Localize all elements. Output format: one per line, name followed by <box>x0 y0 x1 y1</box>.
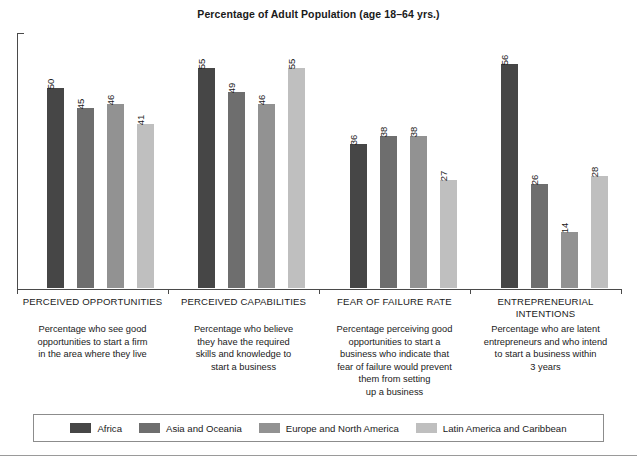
legend-item[interactable]: Europe and North America <box>259 423 399 434</box>
category-title: FEAR OF FAILURE RATE <box>319 296 470 308</box>
legend-swatch <box>416 423 437 433</box>
bar-item[interactable]: 55 <box>198 32 215 288</box>
bar-rect[interactable] <box>501 64 518 288</box>
legend-swatch <box>259 423 280 433</box>
bar-item[interactable]: 36 <box>350 32 367 288</box>
bar-item[interactable]: 27 <box>440 32 457 288</box>
bar-rect[interactable] <box>410 136 427 288</box>
category-description-line: business who indicate that <box>319 348 470 361</box>
bar-item[interactable]: 49 <box>228 32 245 288</box>
bar-value-label: 38 <box>378 127 389 138</box>
bar-item[interactable]: 41 <box>137 32 154 288</box>
bar-rect[interactable] <box>531 184 548 288</box>
bar-value-label: 38 <box>408 127 419 138</box>
bar-value-label: 27 <box>438 171 449 182</box>
bar-value-label: 49 <box>226 83 237 94</box>
bar-value-label: 45 <box>75 99 86 110</box>
legend-label: Asia and Oceania <box>166 423 242 434</box>
category-description-line: in the area where they live <box>17 348 168 361</box>
category-title: ENTREPRENEURIALINTENTIONS <box>470 296 621 320</box>
legend-label: Latin America and Caribbean <box>443 423 567 434</box>
bar-item[interactable]: 38 <box>410 32 427 288</box>
bar-value-label: 46 <box>256 95 267 106</box>
category-description: Percentage who believethey have the requ… <box>168 323 319 373</box>
bar-value-label: 41 <box>135 115 146 126</box>
x-axis-tick <box>470 289 471 294</box>
bar-rect[interactable] <box>228 92 245 288</box>
legend-label: Europe and North America <box>286 423 399 434</box>
category-title-line: INTENTIONS <box>470 308 621 320</box>
bar-rect[interactable] <box>440 180 457 288</box>
x-axis-tick <box>168 289 169 294</box>
bar-rect[interactable] <box>350 144 367 288</box>
category-description-line: 3 years <box>470 361 621 374</box>
bar-item[interactable]: 50 <box>47 32 64 288</box>
category-block: PERCEIVED CAPABILITIESPercentage who bel… <box>168 296 319 373</box>
category-description-line: Percentage who are latent <box>470 323 621 336</box>
category-description-line: opportunities to start a <box>319 336 470 349</box>
bar-item[interactable]: 14 <box>561 32 578 288</box>
legend-item[interactable]: Latin America and Caribbean <box>416 423 567 434</box>
category-description-line: Percentage perceiving good <box>319 323 470 336</box>
legend-item[interactable]: Africa <box>70 423 122 434</box>
bar-rect[interactable] <box>198 68 215 288</box>
category-title-line: FEAR OF FAILURE RATE <box>319 296 470 308</box>
bar-item[interactable]: 55 <box>288 32 305 288</box>
category-description-line: entrepreneurs and who intend <box>470 336 621 349</box>
legend-label: Africa <box>97 423 122 434</box>
category-description-line: fear of failure would prevent <box>319 361 470 374</box>
bar-value-label: 55 <box>196 59 207 70</box>
category-description: Percentage who are latententrepreneurs a… <box>470 323 621 373</box>
legend-swatch <box>70 423 91 433</box>
category-description-line: opportunities to start a firm <box>17 336 168 349</box>
category-title-line: ENTREPRENEURIAL <box>470 296 621 308</box>
bar-value-label: 56 <box>499 55 510 66</box>
bar-item[interactable]: 46 <box>258 32 275 288</box>
x-axis-tick <box>17 289 18 294</box>
category-block: PERCEIVED OPPORTUNITIESPercentage who se… <box>17 296 168 361</box>
legend-item[interactable]: Asia and Oceania <box>139 423 242 434</box>
category-block: FEAR OF FAILURE RATEPercentage perceivin… <box>319 296 470 398</box>
bar-item[interactable]: 38 <box>380 32 397 288</box>
category-title: PERCEIVED CAPABILITIES <box>168 296 319 308</box>
category-description-line: Percentage who believe <box>168 323 319 336</box>
bar-rect[interactable] <box>77 108 94 288</box>
bar-rect[interactable] <box>47 88 64 288</box>
category-description-line: up a business <box>319 386 470 399</box>
bar-value-label: 36 <box>348 135 359 146</box>
bar-item[interactable]: 56 <box>501 32 518 288</box>
category-description-line: skills and knowledge to <box>168 348 319 361</box>
bar-value-label: 46 <box>105 95 116 106</box>
category-description-line: start a business <box>168 361 319 374</box>
category-title-line: PERCEIVED OPPORTUNITIES <box>17 296 168 308</box>
chart-title: Percentage of Adult Population (age 18–6… <box>0 8 637 20</box>
category-description: Percentage perceiving goodopportunities … <box>319 323 470 398</box>
bar-rect[interactable] <box>258 104 275 288</box>
bar-item[interactable]: 26 <box>531 32 548 288</box>
bottom-divider <box>0 455 637 456</box>
bar-value-label: 28 <box>589 167 600 178</box>
y-axis-top-cap <box>17 33 24 34</box>
legend-swatch <box>139 423 160 433</box>
bar-item[interactable]: 45 <box>77 32 94 288</box>
category-description-line: they have the required <box>168 336 319 349</box>
bar-item[interactable]: 28 <box>591 32 608 288</box>
bar-rect[interactable] <box>288 68 305 288</box>
bar-rect[interactable] <box>137 124 154 288</box>
bar-value-label: 50 <box>45 79 56 90</box>
bar-value-label: 26 <box>529 175 540 186</box>
bar-rect[interactable] <box>591 176 608 288</box>
x-axis-tick <box>621 289 622 294</box>
category-description: Percentage who see goodopportunities to … <box>17 323 168 361</box>
bar-item[interactable]: 46 <box>107 32 124 288</box>
category-title-line: PERCEIVED CAPABILITIES <box>168 296 319 308</box>
category-description-line: to start a business within <box>470 348 621 361</box>
y-axis-line <box>17 33 18 289</box>
bar-value-label: 55 <box>286 59 297 70</box>
category-description-line: them from setting <box>319 373 470 386</box>
bar-rect[interactable] <box>561 232 578 288</box>
bar-rect[interactable] <box>380 136 397 288</box>
bar-rect[interactable] <box>107 104 124 288</box>
plot-area: 50454641554946553638382756261428 <box>17 33 621 289</box>
bar-chart-figure: Percentage of Adult Population (age 18–6… <box>0 0 637 457</box>
